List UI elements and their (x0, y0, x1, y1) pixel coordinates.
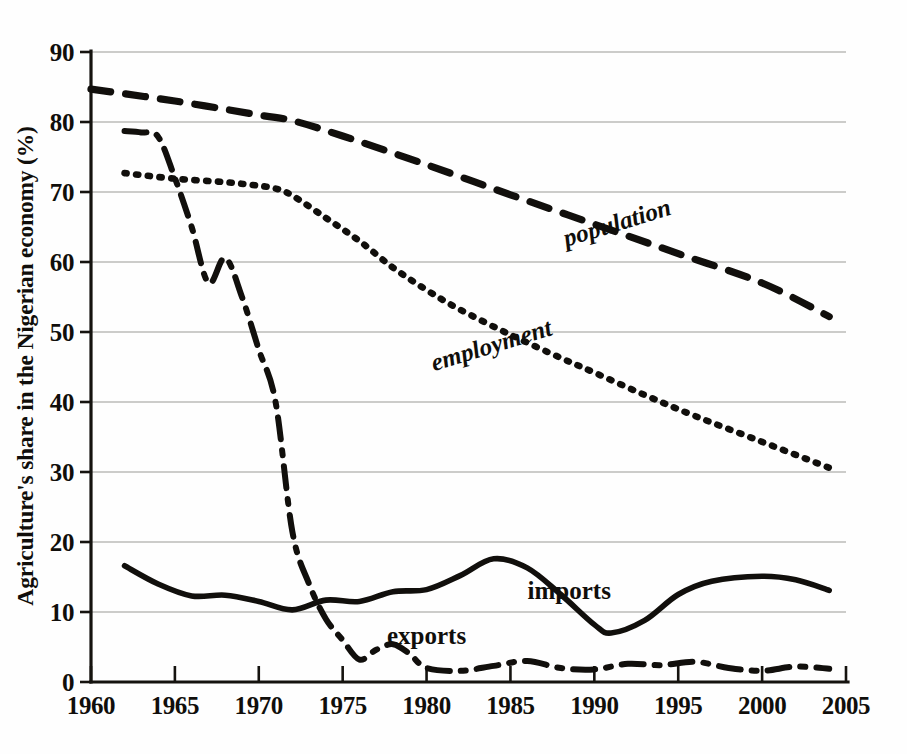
xtick-label-1995: 1995 (654, 692, 702, 719)
tick-labels: 0102030405060708090196019651970197519801… (50, 39, 870, 719)
xtick-label-1980: 1980 (402, 692, 450, 719)
ytick-label-60: 60 (50, 249, 74, 276)
series-line-population (91, 89, 829, 317)
xtick-label-2005: 2005 (822, 692, 870, 719)
ytick-label-90: 90 (50, 39, 74, 66)
chart-canvas: 0102030405060708090196019651970197519801… (0, 0, 907, 754)
series-line-imports (125, 559, 830, 634)
axes (91, 51, 848, 682)
population-label: population (558, 193, 674, 252)
xtick-label-2000: 2000 (738, 692, 786, 719)
data-series (91, 89, 829, 671)
ytick-label-20: 20 (50, 529, 74, 556)
xtick-label-1985: 1985 (486, 692, 534, 719)
ytick-label-70: 70 (50, 179, 74, 206)
ytick-label-10: 10 (50, 599, 74, 626)
xtick-label-1970: 1970 (235, 692, 283, 719)
xtick-label-1960: 1960 (67, 692, 115, 719)
series-line-exports (125, 131, 830, 671)
ytick-label-50: 50 (50, 319, 74, 346)
ytick-label-80: 80 (50, 109, 74, 136)
exports-label: exports (387, 622, 466, 649)
gridlines (91, 52, 846, 612)
xtick-label-1975: 1975 (318, 692, 366, 719)
series-line-employment (125, 173, 830, 468)
xtick-label-1965: 1965 (151, 692, 199, 719)
ytick-label-30: 30 (50, 459, 74, 486)
imports-label: imports (528, 577, 612, 604)
chart-figure: 0102030405060708090196019651970197519801… (0, 0, 907, 754)
employment-label: employment (428, 313, 556, 376)
ytick-label-40: 40 (50, 389, 74, 416)
y-axis-title: Agriculture's share in the Nigerian econ… (12, 126, 38, 605)
xtick-label-1990: 1990 (570, 692, 618, 719)
